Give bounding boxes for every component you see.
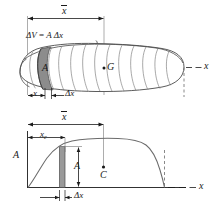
- upper-diagram: [20, 16, 202, 99]
- upper-xbar-label: x: [62, 6, 66, 16]
- physics-figure: x ΔV = A Δx A G x x Δx x xc A A C Δx x: [0, 0, 221, 213]
- centroid-C-label: C: [100, 170, 107, 180]
- centroid-G-label: G: [107, 62, 114, 72]
- lower-axis-area-label: A: [13, 150, 19, 160]
- lower-deltax-dimension-label: Δx: [74, 191, 83, 200]
- lower-shaded-strip: [60, 147, 66, 188]
- lower-x-axis-label: x: [199, 181, 203, 191]
- upper-x-dimension-label: x: [33, 89, 37, 98]
- upper-slice-area-label: A: [42, 63, 48, 73]
- upper-xbar-dimension-line: [28, 17, 104, 21]
- lower-centroid-C: [102, 143, 105, 169]
- overbar-mark: [61, 5, 67, 6]
- upper-x-axis-label: x: [204, 61, 208, 71]
- lower-diagram: [28, 123, 197, 201]
- volume-element-equation: ΔV = A Δx: [26, 31, 63, 40]
- overbar-mark-lower: [61, 111, 67, 112]
- lower-deltax-dimension-line: [40, 190, 72, 201]
- equation-equals: =: [37, 30, 47, 40]
- centroid-G-dot: [103, 67, 106, 70]
- lower-xc-label: xc: [40, 130, 47, 140]
- lower-strip-area-label: A: [74, 161, 80, 171]
- xc-subscript: c: [44, 134, 47, 140]
- lower-xbar-label: x: [62, 112, 66, 122]
- lower-area-curve: [28, 138, 165, 187]
- upper-deltax-dimension-label: Δx: [65, 89, 74, 98]
